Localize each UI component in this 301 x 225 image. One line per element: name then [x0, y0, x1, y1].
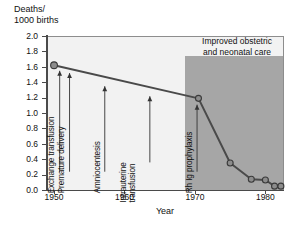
- x-axis-line: [46, 190, 284, 192]
- y-tick-mark: [42, 159, 46, 160]
- y-tick-mark: [42, 144, 46, 145]
- y-tick-label: 1.4: [18, 78, 38, 87]
- y-tick-label: 1.2: [18, 93, 38, 102]
- y-tick-mark: [42, 190, 46, 191]
- plot-area: Improved obstetric and neonatal care: [47, 36, 284, 191]
- y-tick-label: 1.0: [18, 109, 38, 118]
- y-tick-label: 1.6: [18, 63, 38, 72]
- y-tick-mark: [42, 82, 46, 83]
- x-tick-mark: [195, 190, 196, 194]
- y-tick-label: 2.0: [18, 32, 38, 41]
- x-axis-title: Year: [47, 206, 283, 216]
- y-tick-mark: [42, 175, 46, 176]
- y-tick-label: 0.6: [18, 140, 38, 149]
- annotation-label: Rh Ig prophylaxis: [185, 132, 194, 194]
- y-tick-mark: [42, 113, 46, 114]
- x-tick-label: 1950: [39, 193, 69, 202]
- y-tick-mark: [42, 36, 46, 37]
- shaded-region-improved-care: [185, 56, 283, 191]
- y-tick-mark: [42, 128, 46, 129]
- y-tick-mark: [42, 67, 46, 68]
- y-tick-label: 0.2: [18, 170, 38, 179]
- y-tick-mark: [42, 51, 46, 52]
- annotation-label: Amniocentesis: [92, 141, 101, 193]
- y-tick-label: 1.8: [18, 47, 38, 56]
- y-tick-mark: [42, 98, 46, 99]
- y-tick-label: 0.0: [18, 186, 38, 195]
- annotation-label: Intrauterine transfusion: [119, 162, 138, 202]
- annotation-label: Premature delivery: [57, 126, 66, 193]
- x-tick-mark: [265, 190, 266, 194]
- y-tick-label: 0.4: [18, 155, 38, 164]
- x-tick-label: 1980: [250, 193, 280, 202]
- y-tick-label: 0.8: [18, 124, 38, 133]
- annotation-label: Exchange transfusion: [47, 117, 56, 194]
- chart-figure: Deaths/ 1000 births Improved obstetric a…: [0, 0, 301, 225]
- y-axis-title: Deaths/ 1000 births: [14, 4, 59, 26]
- shaded-region-label: Improved obstetric and neonatal care: [189, 36, 285, 57]
- x-tick-label: 1970: [180, 193, 210, 202]
